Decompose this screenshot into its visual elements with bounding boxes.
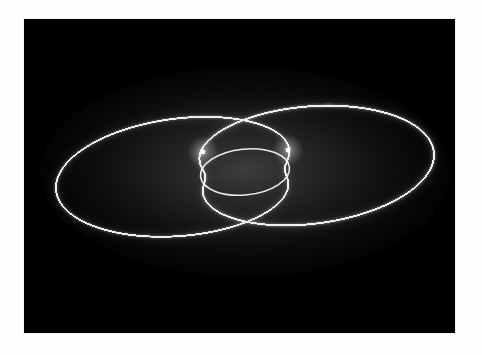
- ambient-glow: [40, 67, 450, 277]
- page-root: Long-exposure light painting of a spirog…: [0, 0, 482, 355]
- left-node-core: [201, 150, 206, 155]
- spirograph-canvas: [24, 19, 455, 333]
- right-node-core: [286, 148, 291, 153]
- photograph: [24, 19, 455, 333]
